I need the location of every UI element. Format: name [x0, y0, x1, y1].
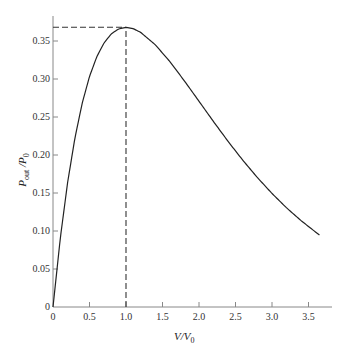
x-axis-ticks: 00.51.01.52.02.53.03.5 — [51, 302, 315, 322]
x-tick-label: 2.0 — [193, 311, 206, 322]
axes — [53, 16, 332, 307]
x-tick-label: 0.5 — [83, 311, 96, 322]
x-axis-label: V/V0 — [174, 330, 195, 345]
x-tick-label: 3.5 — [302, 311, 315, 322]
power-ratio-chart: 00.050.100.150.200.250.300.35 00.51.01.5… — [0, 0, 348, 361]
x-tick-label: 1.5 — [156, 311, 169, 322]
x-tick-label: 2.5 — [229, 311, 242, 322]
power-curve — [53, 27, 319, 307]
y-tick-label: 0 — [45, 301, 50, 312]
y-axis-label: Pout /P0 — [16, 153, 31, 188]
y-tick-label: 0.30 — [33, 73, 51, 84]
y-tick-label: 0.20 — [33, 149, 51, 160]
y-tick-label: 0.25 — [33, 111, 51, 122]
y-axis-ticks: 00.050.100.150.200.250.300.35 — [33, 35, 59, 312]
x-tick-label: 0 — [51, 311, 56, 322]
y-tick-label: 0.05 — [33, 263, 51, 274]
peak-guides — [53, 27, 126, 307]
x-tick-label: 3.0 — [266, 311, 279, 322]
x-tick-label: 1.0 — [120, 311, 133, 322]
y-tick-label: 0.10 — [33, 225, 51, 236]
y-tick-label: 0.35 — [33, 35, 51, 46]
y-tick-label: 0.15 — [33, 187, 51, 198]
